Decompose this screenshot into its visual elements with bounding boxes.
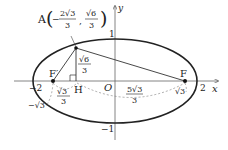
- comma: ,: [79, 16, 82, 26]
- label-Fprime: F′: [49, 68, 59, 79]
- label-origin: O: [104, 82, 112, 93]
- minus-sign: −: [52, 14, 60, 24]
- HF-numerator: 5√3: [127, 85, 142, 94]
- A-x-denominator: 3: [65, 21, 70, 30]
- AH-denominator: 3: [82, 66, 87, 75]
- A-y-numerator: √6: [86, 9, 96, 18]
- FpH-denominator: 3: [61, 97, 66, 106]
- segment-AF: [76, 48, 185, 81]
- x-axis-label: x: [212, 83, 218, 94]
- y-axis-label: y: [117, 3, 124, 13]
- tick-y-neg1: −1: [101, 124, 114, 134]
- A-x-numerator: 2√3: [60, 9, 75, 18]
- FpH-numerator: √3: [57, 87, 67, 96]
- label-F: F: [180, 68, 187, 79]
- tick-x-neg2: −2: [29, 83, 42, 93]
- AH-numerator: √6: [79, 55, 89, 64]
- paren-close: ): [100, 7, 107, 29]
- point-F: [183, 79, 187, 83]
- tick-y-pos1: 1: [109, 29, 115, 39]
- tick-x-pos-sqrt3: √3: [175, 87, 185, 96]
- ellipse-diagram: A ( − 2√3 3 , √6 3 ) √6 3 F′ F H O −2 2 …: [0, 0, 228, 150]
- A-y-denominator: 3: [89, 21, 94, 30]
- dimension-arc-pos-sqrt3: [185, 83, 186, 92]
- point-A: [74, 46, 78, 50]
- point-Fprime: [51, 79, 55, 83]
- dimension-arc-neg-sqrt3: [46, 83, 53, 106]
- tick-x-neg-sqrt3: −√3: [28, 101, 45, 110]
- tick-x-pos2: 2: [200, 83, 206, 93]
- HF-denominator: 3: [132, 96, 137, 105]
- right-angle-mark: [70, 75, 76, 81]
- label-H: H: [74, 84, 83, 95]
